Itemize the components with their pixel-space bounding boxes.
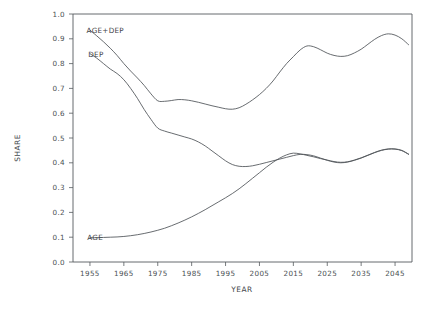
y-tick-label: 0.5 <box>53 134 65 143</box>
y-tick-label: 0.1 <box>53 233 65 242</box>
axis-frame <box>73 14 412 262</box>
y-axis-title: SHARE <box>13 134 22 162</box>
x-axis-title: YEAR <box>230 285 252 294</box>
y-tick-label: 0.8 <box>53 59 66 68</box>
x-tick-label: 2005 <box>250 269 270 278</box>
x-tick-label: 1975 <box>148 269 168 278</box>
y-tick-label: 0.3 <box>53 183 65 192</box>
y-tick-label: 0.7 <box>53 84 65 93</box>
x-tick-label: 1955 <box>80 269 100 278</box>
x-tick-label: 1995 <box>216 269 236 278</box>
series-annotations-group: AGE+DEPDEPAGE <box>87 26 125 241</box>
x-tick-label: 2045 <box>385 269 405 278</box>
y-tick-label: 0.6 <box>53 109 66 118</box>
y-tick-label: 0.9 <box>53 34 66 43</box>
y-tick-label: 0.0 <box>53 258 66 267</box>
series-label-age-plus-dep: AGE+DEP <box>87 26 125 35</box>
chart-page: 0.00.10.20.30.40.50.60.70.80.91.0 195519… <box>0 0 431 309</box>
series-label-age: AGE <box>87 233 103 242</box>
x-axis-ticks: 1955196519751985199520052015202520352045 <box>80 262 405 278</box>
series-line-age-plus-dep <box>90 30 409 109</box>
y-tick-label: 0.2 <box>53 208 65 217</box>
plot-frame <box>73 14 412 262</box>
y-tick-label: 0.4 <box>53 158 66 167</box>
x-tick-label: 1985 <box>182 269 202 278</box>
series-line-age <box>90 149 409 238</box>
y-axis-ticks: 0.00.10.20.30.40.50.60.70.80.91.0 <box>53 10 73 267</box>
x-tick-label: 2025 <box>317 269 337 278</box>
series-label-dep: DEP <box>88 50 104 59</box>
x-tick-label: 1965 <box>114 269 134 278</box>
data-series-group <box>90 30 409 238</box>
series-line-dep <box>90 54 409 167</box>
y-tick-label: 1.0 <box>53 10 66 19</box>
x-tick-label: 2035 <box>351 269 371 278</box>
x-tick-label: 2015 <box>283 269 303 278</box>
share-vs-year-line-chart: 0.00.10.20.30.40.50.60.70.80.91.0 195519… <box>0 0 431 309</box>
